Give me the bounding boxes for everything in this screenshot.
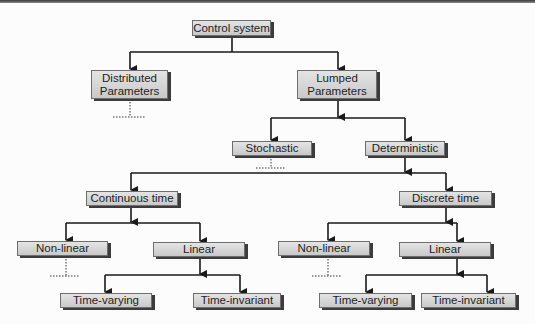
node-continuous-linear: Linear (153, 242, 245, 257)
node-stochastic: Stochastic (232, 141, 312, 156)
node-deterministic: Deterministic (365, 141, 445, 156)
node-discrete-time-varying: Time-varying (319, 293, 412, 308)
diagram-canvas: Control system Distributed Parameters Lu… (0, 0, 535, 324)
node-continuous-time-varying: Time-varying (60, 293, 152, 308)
node-discrete-time-invariant: Time-invariant (421, 293, 516, 308)
node-control-system: Control system (192, 20, 271, 36)
node-discrete-nonlinear: Non-linear (278, 241, 370, 256)
node-continuous-time-invariant: Time-invariant (193, 293, 281, 308)
node-lumped-parameters: Lumped Parameters (297, 70, 377, 99)
node-continuous-nonlinear: Non-linear (17, 241, 108, 256)
node-discrete-linear: Linear (399, 242, 491, 257)
node-continuous-time: Continuous time (86, 191, 178, 206)
node-discrete-time: Discrete time (399, 191, 492, 206)
node-distributed-parameters: Distributed Parameters (91, 70, 168, 99)
connector-lines (0, 0, 535, 324)
